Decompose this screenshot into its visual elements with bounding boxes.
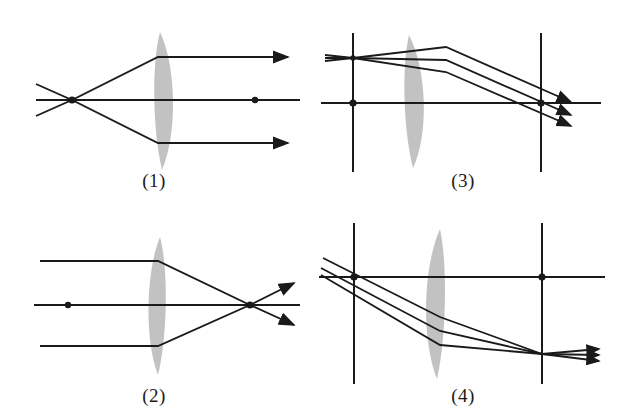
panel-4-label: (4) bbox=[309, 385, 617, 407]
panel-2-diagram: (2) bbox=[0, 209, 308, 417]
axis-marker-left bbox=[65, 302, 71, 308]
object-point bbox=[350, 55, 356, 61]
ray-lower bbox=[321, 275, 599, 361]
right-focal-point bbox=[538, 273, 545, 280]
lens-shape bbox=[404, 35, 423, 168]
ray-upper bbox=[323, 258, 599, 354]
focal-point-right bbox=[246, 301, 253, 308]
panel-2-label: (2) bbox=[0, 385, 308, 407]
ray-upper bbox=[40, 261, 294, 305]
ray-lower bbox=[325, 58, 571, 126]
right-focal-point bbox=[537, 99, 544, 106]
left-focal-point bbox=[349, 99, 356, 106]
panel-1-diagram: (1) bbox=[0, 0, 308, 208]
ray-diagram-figure: (1) (3) bbox=[0, 0, 617, 417]
axis-marker-right bbox=[252, 97, 258, 103]
panel-4-diagram: (4) bbox=[309, 209, 617, 417]
lens-shape bbox=[426, 229, 445, 379]
ray-middle bbox=[321, 268, 599, 355]
focal-point-left bbox=[68, 96, 75, 103]
left-focal-point bbox=[350, 273, 357, 280]
panel-3-label: (3) bbox=[309, 170, 617, 192]
ray-lower bbox=[40, 305, 294, 346]
panel-3-diagram: (3) bbox=[309, 0, 617, 208]
ray-upper bbox=[325, 47, 571, 102]
panel-1-label: (1) bbox=[0, 170, 308, 192]
